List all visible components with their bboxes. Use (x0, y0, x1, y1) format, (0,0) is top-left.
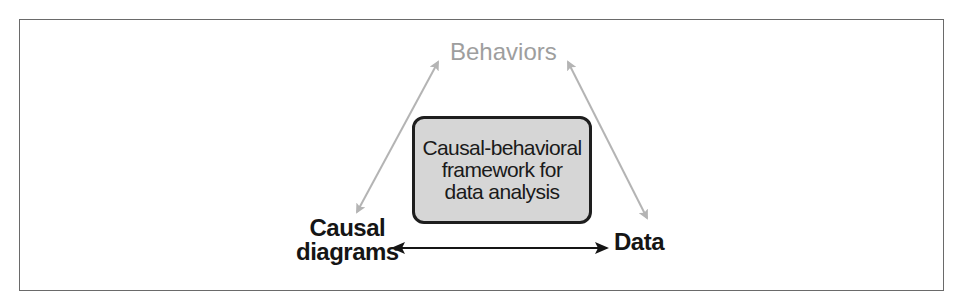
node-causal-diagrams: Causal diagrams (296, 216, 399, 264)
causal-line-1: Causal (296, 216, 399, 240)
framework-line-1: Causal-behavioral (422, 137, 581, 159)
node-data: Data (614, 228, 664, 256)
node-framework: Causal-behavioral framework for data ana… (412, 116, 592, 224)
causal-line-2: diagrams (296, 240, 399, 264)
framework-line-2: framework for (422, 159, 581, 181)
node-behaviors: Behaviors (450, 38, 557, 66)
framework-line-3: data analysis (422, 181, 581, 203)
